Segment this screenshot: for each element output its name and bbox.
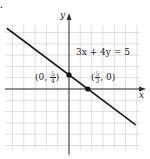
line-graph: [0, 0, 150, 159]
y-axis-arrow-icon: [67, 13, 72, 20]
y-axis-label: y: [60, 10, 65, 20]
x-axis-label: x: [139, 90, 144, 100]
axes: [5, 13, 146, 155]
point-label-y-intercept: (0, 54): [35, 71, 59, 84]
equation-label: 3x + 4y = 5: [76, 47, 130, 57]
grid-lines: [5, 25, 140, 150]
equation-line: [7, 28, 136, 125]
data-point: [66, 72, 71, 77]
data-point: [85, 86, 90, 91]
point-label-x-intercept: (53, 0): [91, 71, 115, 84]
